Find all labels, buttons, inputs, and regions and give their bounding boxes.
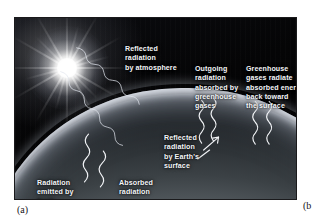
label-reflected-radiation-by-atmosphere: Reflected radiation by atmosphere [125, 45, 205, 73]
label-outgoing-radiation-absorbed-by-greenhouse-gases: Outgoing radiation absorbed by greenhous… [195, 65, 243, 111]
label-greenhouse-gases-radiate-back: Greenhouse gases radiate absorbed energy… [246, 65, 297, 111]
label-radiation-emitted-by-earth: Radiation emitted by Earth [37, 179, 93, 200]
greenhouse-effect-figure: Reflected radiation by atmosphere Outgoi… [14, 17, 297, 200]
label-absorbed-radiation: Absorbed radiation [119, 179, 169, 198]
figure-caption-a: (a) [17, 204, 28, 215]
figure-caption-b: (b [303, 200, 311, 211]
sun-core [57, 58, 77, 78]
sun [25, 26, 109, 110]
label-reflected-radiation-by-earths-surface: Reflected radiation by Earth's surface [164, 134, 216, 171]
